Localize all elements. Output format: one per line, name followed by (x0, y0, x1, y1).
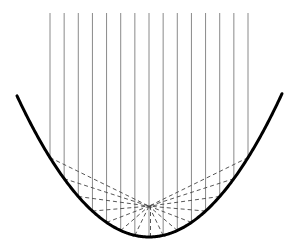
incident-rays (50, 13, 248, 237)
reflected-ray (149, 206, 163, 235)
parabolic-mirror-diagram (0, 0, 293, 249)
reflected-ray (135, 206, 149, 235)
